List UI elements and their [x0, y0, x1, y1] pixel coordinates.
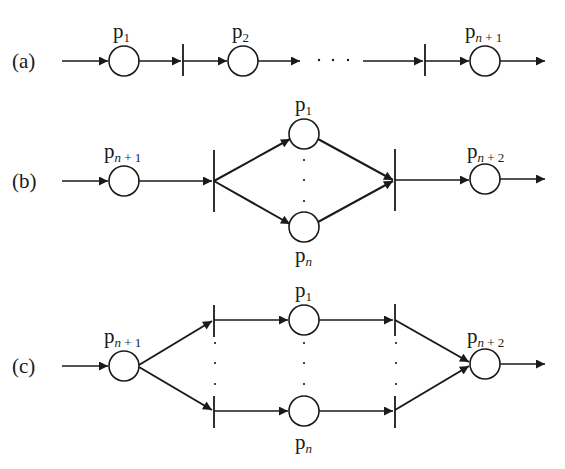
place-label-pn2: pn + 2 [467, 139, 504, 165]
row-a-ellipsis [318, 59, 349, 61]
place-pn [289, 212, 319, 242]
place-label-p1: p1 [295, 92, 312, 118]
row-b-ellipsis [303, 159, 305, 202]
arc [139, 367, 212, 410]
place-p1 [289, 305, 319, 335]
place-label-p2: p2 [232, 19, 249, 45]
place-label-p1: p1 [295, 278, 312, 304]
row-label-a: (a) [12, 49, 35, 73]
place-label-pn: pn [295, 430, 312, 456]
place-label-pn: pn [295, 243, 312, 269]
arc [318, 181, 393, 222]
row-a-sequential [62, 44, 545, 76]
row-label-c: (c) [12, 354, 35, 378]
place-pn1 [109, 166, 139, 196]
arc [139, 321, 212, 365]
place-label-pn1: pn + 1 [104, 324, 141, 350]
place-label-pn1: pn + 1 [465, 19, 502, 45]
arc [214, 181, 290, 224]
arc [318, 139, 393, 180]
row-c-ellipsis [214, 342, 397, 385]
arc [214, 139, 290, 181]
petri-net-diagram: (a) p1 p2 pn + 1 (b) pn + 1 p1 pn pn + 2 [0, 0, 565, 469]
place-pn2 [470, 349, 500, 379]
place-pn1 [109, 351, 139, 381]
place-p2 [228, 46, 258, 76]
place-pn [289, 396, 319, 426]
place-label-p1: p1 [113, 19, 130, 45]
place-p1 [109, 46, 139, 76]
place-label-pn2: pn + 2 [467, 324, 504, 350]
place-pn1 [470, 46, 500, 76]
row-c-choice [62, 304, 545, 428]
place-p1 [289, 119, 319, 149]
place-pn2 [470, 164, 500, 194]
arc [395, 366, 469, 410]
arc [395, 320, 469, 362]
place-label-pn1: pn + 1 [104, 139, 141, 165]
row-label-b: (b) [12, 169, 37, 193]
